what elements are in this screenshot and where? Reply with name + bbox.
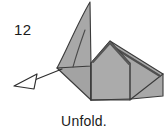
step-number: 12 xyxy=(14,22,32,38)
origami-model xyxy=(57,2,163,100)
left-flap-shape xyxy=(57,2,91,68)
caption-text: Unfold. xyxy=(0,113,168,130)
origami-diagram: 12 Unfold. xyxy=(0,0,168,137)
unfold-arrow xyxy=(14,69,62,89)
arrow-head-icon xyxy=(14,74,37,89)
